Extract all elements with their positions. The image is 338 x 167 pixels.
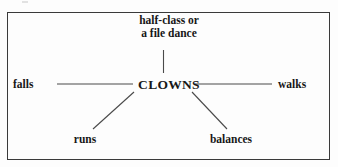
node-bottom-right-balances: balances — [196, 133, 266, 146]
node-top-label-line1: half-class or — [139, 14, 199, 26]
node-top-label-line2: a file dance — [0, 27, 338, 40]
node-top: half-class or a file dance — [0, 14, 338, 40]
connector-bottom-right — [192, 92, 227, 129]
node-left-falls: falls — [13, 78, 57, 91]
node-bottom-left-runs: runs — [60, 133, 110, 146]
connector-bottom-left — [93, 92, 134, 129]
node-right-walks: walks — [278, 78, 330, 91]
diagram-screenshot: half-class or a file dance CLOWNS falls … — [0, 0, 338, 167]
